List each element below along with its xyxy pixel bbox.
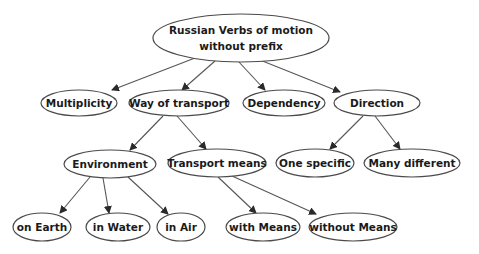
node-one-specific: One specific <box>276 149 354 177</box>
node-label: One specific <box>279 157 351 169</box>
edge-environment-to-on-earth <box>60 177 90 213</box>
node-ellipse <box>153 14 329 62</box>
edge-way-of-transport-to-transport-means <box>177 116 206 149</box>
node-label: Multiplicity <box>46 97 113 109</box>
edge-transport-means-to-without-means <box>232 176 316 214</box>
node-label: without prefix <box>199 40 283 52</box>
edge-root-to-dependency <box>238 61 265 90</box>
node-label: with Means <box>229 221 297 233</box>
node-direction: Direction <box>334 90 420 116</box>
node-label: Many different <box>368 157 455 169</box>
edge-transport-means-to-with-means <box>218 177 256 213</box>
node-with-means: with Means <box>226 213 300 241</box>
edge-way-of-transport-to-environment <box>130 116 163 150</box>
node-way-of-transport: Way of transport <box>129 90 229 116</box>
node-label: Direction <box>350 97 404 109</box>
edge-environment-to-in-air <box>128 177 168 214</box>
nodes-layer: Russian Verbs of motionwithout prefixMul… <box>13 14 460 241</box>
node-in-water: in Water <box>86 213 150 241</box>
node-root: Russian Verbs of motionwithout prefix <box>153 14 329 62</box>
node-environment: Environment <box>64 150 156 178</box>
edge-direction-to-many-different <box>375 116 400 149</box>
node-label: Way of transport <box>129 97 229 109</box>
node-label: Dependency <box>247 97 320 109</box>
edge-root-to-multiplicity <box>112 58 195 90</box>
node-label: in Air <box>165 221 197 233</box>
edge-environment-to-in-water <box>103 178 109 213</box>
node-without-means: without Means <box>309 213 397 241</box>
node-transport-means: Transport means <box>167 149 266 177</box>
edges-layer <box>60 58 400 214</box>
node-many-different: Many different <box>364 149 460 177</box>
node-label: on Earth <box>17 221 67 233</box>
node-multiplicity: Multiplicity <box>41 90 117 116</box>
node-label: Transport means <box>167 157 266 169</box>
edge-direction-to-one-specific <box>330 116 363 149</box>
diagram-canvas: Russian Verbs of motionwithout prefixMul… <box>0 0 479 254</box>
node-label: Russian Verbs of motion <box>169 24 313 36</box>
edge-root-to-direction <box>260 60 340 92</box>
node-label: in Water <box>93 221 144 233</box>
node-label: Environment <box>72 158 148 170</box>
node-dependency: Dependency <box>243 90 325 116</box>
node-in-air: in Air <box>157 213 205 241</box>
node-on-earth: on Earth <box>13 213 71 241</box>
node-label: without Means <box>309 221 397 233</box>
edge-root-to-way-of-transport <box>182 61 215 90</box>
